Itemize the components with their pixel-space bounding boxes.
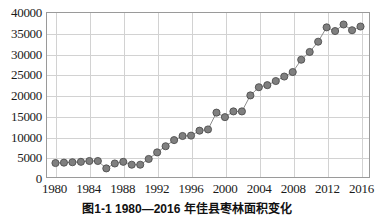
- y-axis-tick-label: 15000: [0, 110, 42, 123]
- data-point-marker: [230, 108, 237, 115]
- data-point-marker: [179, 132, 186, 139]
- data-point-marker: [340, 21, 347, 28]
- y-axis-tick-label: 35000: [0, 27, 42, 40]
- data-point-marker: [213, 109, 220, 116]
- y-axis-tick-label: 40000: [0, 6, 42, 19]
- data-point-marker: [204, 126, 211, 133]
- y-axis-tick-label: 5000: [0, 151, 42, 164]
- data-point-marker: [187, 132, 194, 139]
- data-point-marker: [323, 24, 330, 31]
- data-point-marker: [171, 137, 178, 144]
- y-axis-tick-label: 10000: [0, 131, 42, 144]
- data-point-marker: [120, 158, 127, 165]
- y-axis-tick-label: 25000: [0, 68, 42, 81]
- data-point-marker: [332, 27, 339, 34]
- data-point-marker: [52, 160, 59, 167]
- data-point-marker: [86, 157, 93, 164]
- x-axis-tick-label: 2016: [338, 182, 379, 195]
- data-point-marker: [137, 161, 144, 168]
- data-point-marker: [128, 161, 135, 168]
- data-point-marker: [154, 149, 161, 156]
- data-point-marker: [196, 127, 203, 134]
- data-point-marker: [264, 82, 271, 89]
- data-point-marker: [272, 78, 279, 85]
- data-point-marker: [281, 73, 288, 80]
- data-point-marker: [77, 158, 84, 165]
- data-point-marker: [306, 48, 313, 55]
- data-point-marker: [145, 155, 152, 162]
- data-point-marker: [289, 68, 296, 75]
- data-point-marker: [69, 159, 76, 166]
- data-point-marker: [103, 165, 110, 172]
- series-line: [55, 24, 360, 168]
- data-point-marker: [94, 157, 101, 164]
- figure-caption: 图1-1 1980—2016 年佳县枣林面积变化: [0, 202, 374, 216]
- data-point-marker: [60, 159, 67, 166]
- y-axis-tick-label: 20000: [0, 89, 42, 102]
- data-point-marker: [221, 114, 228, 121]
- data-point-marker: [315, 38, 322, 45]
- data-point-marker: [348, 27, 355, 34]
- plot-area: [46, 12, 370, 178]
- data-point-marker: [247, 92, 254, 99]
- y-axis-tick-label: 30000: [0, 48, 42, 61]
- data-point-marker: [162, 143, 169, 150]
- data-point-marker: [357, 23, 364, 30]
- data-point-marker: [111, 160, 118, 167]
- data-point-marker: [255, 84, 262, 91]
- data-point-marker: [238, 108, 245, 115]
- data-point-marker: [298, 56, 305, 63]
- data-series-line: [47, 13, 369, 177]
